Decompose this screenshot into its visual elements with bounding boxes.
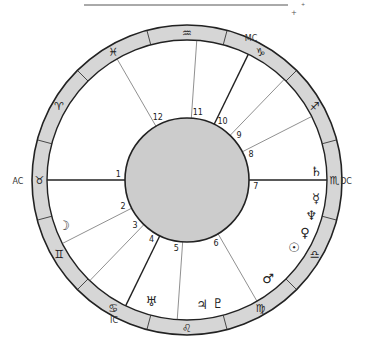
house-number-9: 9: [237, 131, 242, 140]
astrology-chart: ++ ♉♈♓♒♑♐♏♎♍♌♋♊ 123456789101112 ACDCMCIC…: [0, 0, 368, 339]
angle-label-dc: DC: [340, 177, 352, 186]
jupiter-icon: ♃: [196, 297, 208, 312]
plus-mark: +: [291, 9, 297, 17]
neptune-icon: ♆: [305, 208, 317, 223]
moon-icon: ☽: [58, 218, 70, 233]
pisces-sign-icon: ♓: [108, 46, 118, 59]
house-number-12: 12: [153, 113, 163, 122]
house-number-6: 6: [214, 239, 219, 248]
house-number-1: 1: [116, 170, 121, 179]
house-number-8: 8: [248, 150, 253, 159]
house-number-7: 7: [253, 182, 258, 191]
leo-sign-icon: ♌: [182, 322, 192, 335]
scorpio-sign-icon: ♏: [330, 174, 340, 187]
center-circle: [125, 118, 249, 242]
house-number-5: 5: [174, 244, 179, 253]
taurus-sign-icon: ♉: [35, 174, 45, 187]
cancer-sign-icon: ♋: [108, 302, 118, 315]
angle-label-ic: IC: [110, 316, 118, 325]
header-decoration: ++: [84, 1, 305, 17]
aries-sign-icon: ♈: [54, 100, 64, 113]
house-number-10: 10: [217, 117, 227, 126]
house-number-4: 4: [149, 235, 154, 244]
uranus-icon: ♅: [145, 294, 157, 309]
plus-mark: +: [301, 1, 305, 7]
libra-sign-icon: ♎: [310, 248, 320, 261]
sun-icon: ☉: [288, 240, 300, 255]
pluto-icon: ♇: [212, 296, 224, 311]
center-disc: [125, 118, 249, 242]
sagittarius-sign-icon: ♐: [310, 100, 320, 113]
mars-icon: ♂: [262, 271, 274, 286]
mercury-icon: ☿: [312, 191, 320, 206]
gemini-sign-icon: ♊: [54, 248, 64, 261]
saturn-icon: ♄: [310, 164, 322, 179]
virgo-sign-icon: ♍: [256, 302, 266, 315]
angle-label-mc: MC: [245, 34, 258, 43]
angle-label-ac: AC: [13, 177, 24, 186]
house-number-2: 2: [120, 202, 125, 211]
aquarius-sign-icon: ♒: [182, 27, 192, 40]
capricorn-sign-icon: ♑: [256, 46, 266, 59]
venus-icon: ♀: [300, 225, 310, 240]
house-number-11: 11: [193, 108, 203, 117]
house-number-3: 3: [132, 221, 137, 230]
